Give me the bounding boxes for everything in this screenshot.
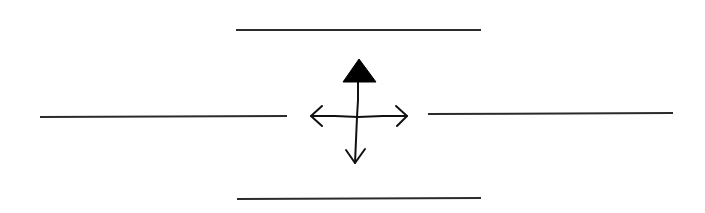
vertical-stem [355,81,358,163]
bottom-line [237,198,481,199]
diagram-canvas [0,0,705,213]
horizontal-stem [311,116,407,117]
up-arrow-icon [343,59,376,82]
move-cross-icon [311,59,407,163]
right-line [428,113,673,114]
diagram-svg [0,0,705,213]
left-line [40,116,287,117]
